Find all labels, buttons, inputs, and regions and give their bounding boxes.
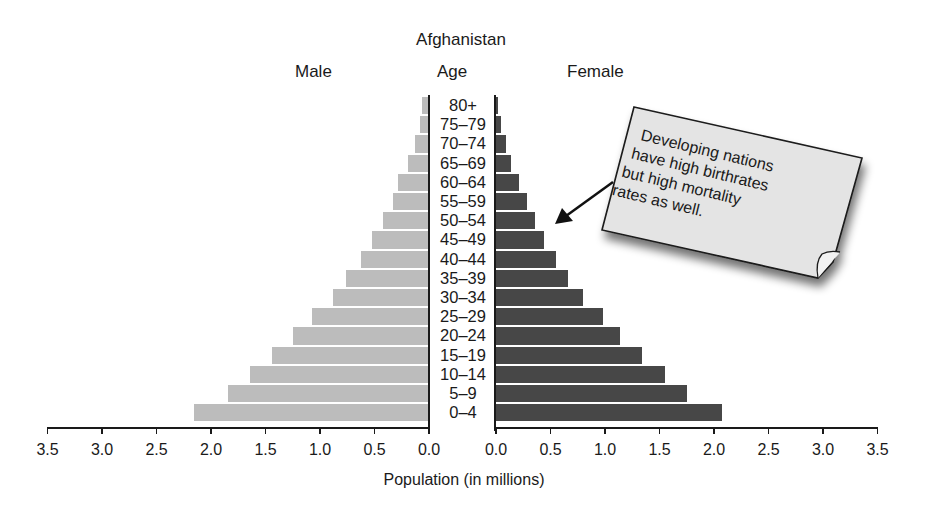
annotation-callout: Developing nations have high birthrates … bbox=[0, 0, 925, 523]
arrow-icon bbox=[555, 182, 613, 224]
